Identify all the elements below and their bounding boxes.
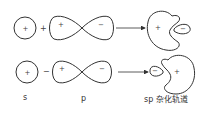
sp-hybrid-1-minus: −	[180, 25, 186, 33]
sp-hybrid-2-plus: +	[174, 68, 180, 76]
label-p: p	[81, 94, 86, 103]
sp-hybrid-1-large-lobe	[147, 11, 179, 50]
row-2-subtraction: + − + − − +	[16, 55, 195, 94]
p-orbital-1-plus: +	[58, 21, 64, 29]
s-orbital-2-sign: +	[25, 69, 31, 77]
p-orbital-2-plus: +	[59, 65, 65, 73]
sp-hybridization-diagram: + + + − + − + − + − − + s p sp 杂化轨道	[0, 0, 201, 115]
label-sp-hybrid: sp 杂化轨道	[144, 94, 188, 104]
operator-2: −	[43, 67, 50, 76]
label-s: s	[23, 93, 27, 102]
p-orbital-2-minus: −	[99, 65, 105, 73]
row-1-addition: + + + − + −	[14, 11, 190, 50]
operator-1: +	[40, 24, 47, 33]
p-orbital-1-minus: −	[98, 21, 104, 29]
sp-hybrid-1-plus: +	[155, 24, 161, 32]
sp-hybrid-2-minus: −	[152, 67, 158, 75]
s-orbital-1-sign: +	[23, 25, 29, 33]
